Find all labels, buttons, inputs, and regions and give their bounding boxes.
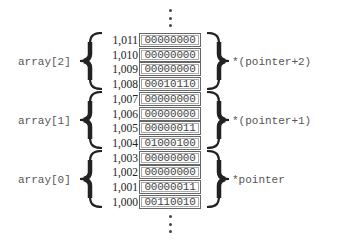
memory-cell: 00110010 <box>139 195 201 209</box>
memory-cell: 00000000 <box>139 92 201 106</box>
memory-cell: 00000000 <box>139 107 201 121</box>
pointer-label: *(pointer+1) <box>232 114 311 128</box>
left-brace-icon <box>78 91 104 149</box>
right-brace-icon <box>205 91 231 149</box>
memory-cell: 00000000 <box>139 62 201 76</box>
memory-row: 1,003 00000000 <box>100 151 210 165</box>
memory-cell: 00000000 <box>139 165 201 179</box>
memory-row: 1,004 01000100 <box>100 136 210 150</box>
continuation-dot-bottom-1 <box>169 215 172 218</box>
memory-row: 1,011 00000000 <box>100 33 210 47</box>
memory-address: 1,007 <box>112 92 138 106</box>
memory-address: 1,004 <box>112 136 138 150</box>
continuation-dot-bottom-3 <box>169 230 172 233</box>
continuation-dot-bottom-2 <box>169 223 172 226</box>
left-brace-icon <box>78 32 104 90</box>
memory-row: 1,006 00000000 <box>100 107 210 121</box>
memory-row: 1,001 00000011 <box>100 180 210 194</box>
memory-row: 1,007 00000000 <box>100 92 210 106</box>
memory-row: 1,009 00000000 <box>100 62 210 76</box>
memory-row: 1,002 00000000 <box>100 165 210 179</box>
memory-cell: 00000011 <box>139 180 201 194</box>
memory-address: 1,002 <box>112 165 138 179</box>
memory-address: 1,000 <box>112 195 138 209</box>
memory-address: 1,009 <box>112 62 138 76</box>
memory-cell: 00000000 <box>139 48 201 62</box>
continuation-dot-top-2 <box>169 17 172 20</box>
right-brace-icon <box>205 150 231 208</box>
memory-address: 1,011 <box>113 33 138 47</box>
memory-cell: 01000100 <box>139 136 201 150</box>
memory-address: 1,006 <box>112 107 138 121</box>
array-label: array[0] <box>18 173 71 187</box>
memory-address: 1,010 <box>112 48 138 62</box>
memory-row: 1,000 00110010 <box>100 195 210 209</box>
memory-address: 1,005 <box>112 121 138 135</box>
memory-row: 1,005 00000011 <box>100 121 210 135</box>
memory-cell: 00000011 <box>139 121 201 135</box>
memory-address: 1,008 <box>112 77 138 91</box>
memory-address: 1,001 <box>112 180 138 194</box>
memory-cell: 00000000 <box>139 33 201 47</box>
pointer-label: *pointer <box>232 173 285 187</box>
array-label: array[1] <box>18 114 71 128</box>
memory-layout-diagram: 1,011 00000000 1,010 00000000 1,009 0000… <box>0 0 340 244</box>
continuation-dot-top-1 <box>169 9 172 12</box>
continuation-dot-top-3 <box>169 24 172 27</box>
memory-row: 1,010 00000000 <box>100 48 210 62</box>
memory-address: 1,003 <box>112 151 138 165</box>
left-brace-icon <box>78 150 104 208</box>
memory-row: 1,008 00010110 <box>100 77 210 91</box>
array-label: array[2] <box>18 55 71 69</box>
memory-cell: 00000000 <box>139 151 201 165</box>
memory-cell: 00010110 <box>139 77 201 91</box>
pointer-label: *(pointer+2) <box>232 55 311 69</box>
right-brace-icon <box>205 32 231 90</box>
